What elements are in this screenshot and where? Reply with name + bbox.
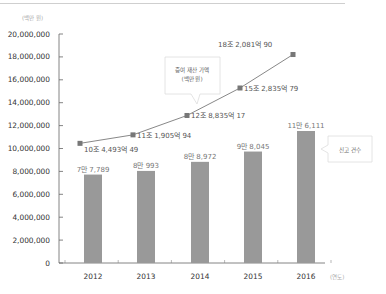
- line-value-label: 15조 2,835억 79: [244, 85, 298, 93]
- line-marker[interactable]: [291, 52, 296, 57]
- bar-2016[interactable]: [297, 131, 315, 263]
- y-tick-label: 16,000,000: [8, 75, 51, 84]
- y-tick-label: 0: [45, 259, 50, 268]
- y-axis-unit-label: (백만 원): [22, 14, 43, 22]
- line-value-label: 12조 8,835억 17: [191, 112, 245, 120]
- line-marker[interactable]: [185, 113, 190, 118]
- y-tick-label: 20,000,000: [8, 30, 51, 39]
- line-value-label: 11조 1,905억 94: [137, 132, 192, 140]
- bar-value-label: 9만 8,045: [237, 142, 270, 151]
- chart-canvas: (백만 원)20,000,00018,000,00016,000,00014,0…: [0, 0, 386, 294]
- y-tick-label: 12,000,000: [8, 121, 51, 130]
- y-tick-label: 18,000,000: [8, 52, 51, 61]
- line-marker[interactable]: [131, 132, 136, 137]
- y-tick-label: 4,000,000: [12, 213, 50, 222]
- y-tick-label: 8,000,000: [12, 167, 50, 176]
- bar-2015[interactable]: [244, 152, 262, 263]
- bar-2014[interactable]: [191, 162, 209, 263]
- x-axis-unit-label: (연도): [330, 273, 344, 280]
- y-tick-label: 6,000,000: [12, 190, 50, 199]
- x-tick-label: 2012: [84, 272, 103, 281]
- callout-line-unit: (백만 원): [181, 75, 202, 83]
- y-tick-label: 2,000,000: [12, 236, 50, 245]
- line-value-label: 18조 2,081억 90: [218, 41, 272, 49]
- bar-value-label: 8만 993: [133, 161, 159, 170]
- x-tick-label: 2015: [244, 272, 263, 281]
- y-tick-label: 14,000,000: [8, 98, 51, 107]
- line-marker[interactable]: [78, 141, 83, 146]
- callout-bar-title: 신고 건수: [339, 146, 361, 154]
- y-tick-label: 10,000,000: [8, 144, 51, 153]
- bar-value-label: 11만 6,111: [287, 121, 324, 130]
- line-value-label: 10조 4,493억 49: [84, 146, 138, 154]
- callout-line-title: 증여 재산 가액: [175, 66, 209, 74]
- bar-value-label: 7만 7,789: [77, 165, 110, 174]
- x-tick-label: 2016: [297, 272, 316, 281]
- line-marker[interactable]: [238, 86, 243, 91]
- bar-value-label: 8만 8,972: [184, 152, 217, 161]
- x-tick-label: 2014: [191, 272, 210, 281]
- bar-2012[interactable]: [84, 175, 102, 263]
- bar-2013[interactable]: [137, 171, 155, 263]
- x-tick-label: 2013: [137, 272, 156, 281]
